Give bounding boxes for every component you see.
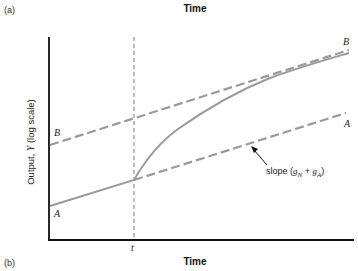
label-b-right: B [343, 36, 349, 47]
path-b-dashed [50, 50, 349, 145]
actual-output-path [50, 53, 349, 206]
y-axis-label-tail: (log scale) [25, 99, 36, 145]
y-axis-label-text: Output, [25, 151, 36, 185]
slope-text: slope ( [266, 166, 293, 176]
tick-label-t: t [131, 242, 134, 253]
y-axis-label-var: Y [26, 146, 36, 151]
x-axis-label: Time [183, 256, 206, 267]
slope-plus: + [302, 166, 312, 176]
label-b-left: B [54, 127, 60, 138]
slope-close: ) [321, 166, 324, 176]
y-axis-label: Output, Y (log scale) [25, 99, 36, 185]
label-a-left: A [54, 208, 60, 219]
arrowhead-icon [251, 146, 258, 153]
slope-annotation: slope (gN + gA) [266, 166, 324, 179]
slope-arrow [254, 150, 267, 165]
panel-label-b: (b) [4, 258, 15, 268]
label-a-right: A [344, 118, 350, 129]
